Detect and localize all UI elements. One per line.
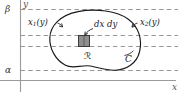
label-x-axis: x: [172, 83, 177, 92]
leader-line-dxdy: [85, 29, 93, 35]
label-x2-arg: (y): [148, 17, 159, 27]
label-curve-c: C: [125, 55, 132, 64]
label-region-r: ℛ: [84, 52, 91, 61]
label-area-element: dx dy: [94, 20, 117, 29]
label-alpha: α: [5, 66, 11, 75]
label-x1-of-y: x1(y): [28, 18, 48, 28]
figure-canvas: β α y x x1(y) x2(y) dx dy ℛ C: [0, 0, 182, 97]
label-x1-arg: (y): [36, 17, 47, 27]
diagram-svg: [0, 0, 182, 97]
label-y-axis: y: [23, 0, 28, 9]
area-element-group: [79, 36, 90, 47]
label-x2-of-y: x2(y): [140, 18, 160, 28]
label-beta: β: [5, 5, 10, 14]
